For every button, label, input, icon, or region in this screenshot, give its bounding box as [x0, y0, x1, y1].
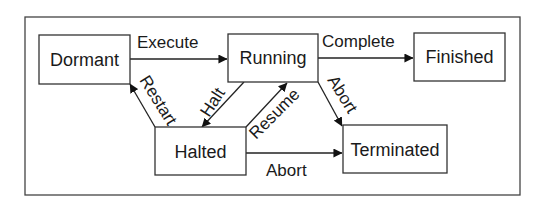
state-finished: Finished	[414, 33, 505, 81]
label-execute: Execute	[137, 33, 198, 52]
state-dormant: Dormant	[39, 35, 130, 84]
state-running: Running	[228, 34, 318, 82]
state-label: Finished	[425, 47, 493, 67]
state-diagram: Dormant Running Finished Halted Terminat…	[0, 0, 543, 199]
state-label: Terminated	[350, 140, 439, 160]
state-halted: Halted	[155, 127, 246, 175]
label-complete: Complete	[322, 32, 395, 51]
state-label: Running	[239, 48, 306, 68]
label-abort-running: Abort	[324, 72, 362, 117]
label-halt: Halt	[196, 84, 229, 120]
label-resume: Resume	[245, 85, 303, 143]
state-terminated: Terminated	[343, 125, 447, 173]
state-label: Halted	[174, 142, 226, 162]
state-label: Dormant	[50, 50, 119, 70]
label-abort-halted: Abort	[266, 161, 307, 180]
label-restart: Restart	[136, 72, 181, 129]
